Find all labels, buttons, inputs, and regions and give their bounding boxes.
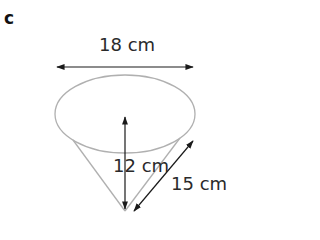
slant-height-label: 15 cm xyxy=(171,173,227,194)
height-label: 12 cm xyxy=(113,155,169,176)
diameter-label: 18 cm xyxy=(99,34,155,55)
